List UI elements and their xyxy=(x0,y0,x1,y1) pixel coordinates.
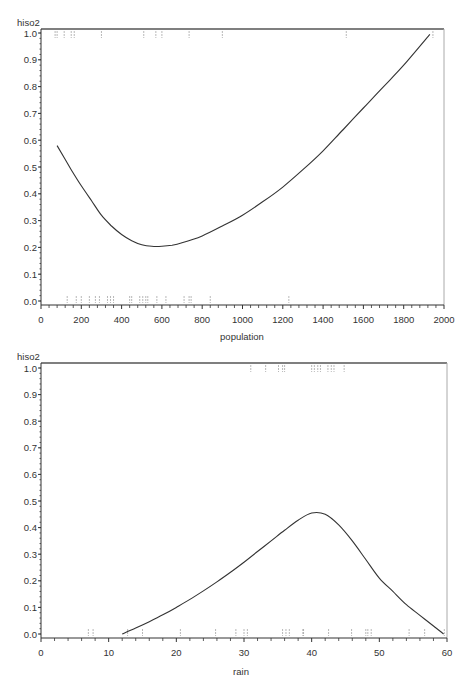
x-tick-label: 10 xyxy=(103,647,114,658)
y-axis-label: hiso2 xyxy=(17,17,40,28)
y-tick-label: 0.5 xyxy=(24,496,37,507)
y-tick-label: 0.2 xyxy=(24,575,37,586)
y-tick-label: 0.1 xyxy=(24,602,37,613)
x-tick-label: 200 xyxy=(73,314,89,325)
y-tick-label: 0.3 xyxy=(24,549,37,560)
x-tick-label: 60 xyxy=(442,647,453,658)
x-tick-label: 0 xyxy=(38,647,43,658)
x-tick-label: 800 xyxy=(194,314,210,325)
x-tick-label: 1400 xyxy=(313,314,334,325)
rain-chart: hiso2 0.00.10.20.30.40.50.60.70.80.91.00… xyxy=(17,351,452,677)
y-tick-label: 0.6 xyxy=(24,469,37,480)
plot-area: 0.00.10.20.30.40.50.60.70.80.91.00200400… xyxy=(24,28,455,326)
y-tick-label: 0.9 xyxy=(24,389,37,400)
y-tick-label: 0.6 xyxy=(24,135,37,146)
x-axis-label: rain xyxy=(233,666,249,677)
population-chart: hiso2 0.00.10.20.30.40.50.60.70.80.91.00… xyxy=(17,17,455,342)
x-tick-label: 20 xyxy=(171,647,182,658)
y-tick-label: 0.8 xyxy=(24,416,37,427)
x-tick-label: 400 xyxy=(114,314,130,325)
x-tick-label: 40 xyxy=(306,647,317,658)
x-tick-label: 30 xyxy=(239,647,250,658)
x-tick-label: 1800 xyxy=(393,314,414,325)
y-tick-label: 0.1 xyxy=(24,269,37,280)
x-tick-label: 1000 xyxy=(232,314,253,325)
y-tick-label: 0.4 xyxy=(24,188,37,199)
x-tick-label: 2000 xyxy=(433,314,454,325)
y-tick-label: 0.3 xyxy=(24,215,37,226)
y-tick-label: 0.5 xyxy=(24,162,37,173)
x-tick-label: 50 xyxy=(374,647,385,658)
x-tick-label: 1200 xyxy=(272,314,293,325)
x-axis-label: population xyxy=(220,331,264,342)
y-tick-label: 0.0 xyxy=(24,629,37,640)
y-axis-label: hiso2 xyxy=(17,351,40,362)
x-tick-label: 0 xyxy=(38,314,43,325)
x-tick-label: 600 xyxy=(154,314,170,325)
y-tick-label: 0.0 xyxy=(24,296,37,307)
y-tick-label: 0.7 xyxy=(24,442,37,453)
y-tick-label: 0.2 xyxy=(24,242,37,253)
y-tick-label: 0.7 xyxy=(24,108,37,119)
x-tick-label: 1600 xyxy=(353,314,374,325)
plot-area: 0.00.10.20.30.40.50.60.70.80.91.00102030… xyxy=(24,363,453,659)
chart-canvas: hiso2 0.00.10.20.30.40.50.60.70.80.91.00… xyxy=(0,0,467,691)
fitted-curve xyxy=(57,34,430,246)
y-tick-label: 0.4 xyxy=(24,522,37,533)
y-tick-label: 1.0 xyxy=(24,363,37,374)
y-tick-label: 0.8 xyxy=(24,81,37,92)
y-tick-label: 1.0 xyxy=(24,28,37,39)
fitted-curve xyxy=(122,512,443,634)
y-tick-label: 0.9 xyxy=(24,54,37,65)
